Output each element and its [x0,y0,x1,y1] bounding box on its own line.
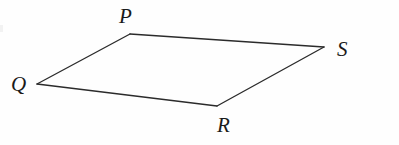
vertex-label-q: Q [11,74,26,95]
figure-canvas: P Q R S [0,0,399,145]
vertex-label-s: S [337,39,348,60]
edge-r-to-q [37,84,217,106]
edge-q-to-p [37,34,130,84]
vertex-label-r: R [217,115,230,136]
edge-s-to-r [217,47,324,106]
quadrilateral-diagram [0,0,399,145]
edge-p-to-s [130,34,324,47]
vertex-label-p: P [119,6,132,27]
